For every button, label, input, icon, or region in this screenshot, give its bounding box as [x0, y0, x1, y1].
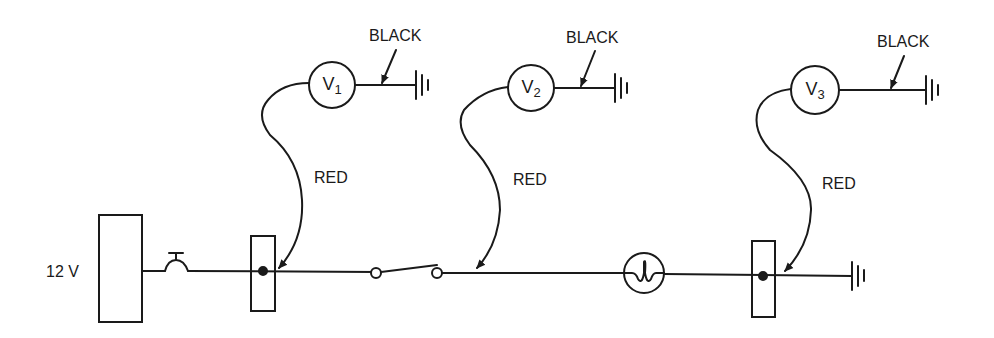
v2-subscript: 2 [533, 85, 540, 100]
circuit-breaker-icon [165, 253, 188, 271]
source-voltage-label: 12 V [46, 264, 79, 280]
v2-label: V2 [521, 78, 540, 99]
test-point-1 [259, 267, 267, 275]
v2-red-label: RED [513, 172, 547, 188]
ground-icon [852, 262, 864, 290]
voltmeter-v1 [262, 50, 428, 268]
test-point-3 [759, 272, 767, 280]
v1-red-label: RED [314, 170, 348, 186]
v3-black-label: BLACK [877, 34, 929, 50]
v1-letter: V [322, 74, 334, 94]
v3-label: V3 [805, 80, 824, 101]
voltmeter-v2 [461, 51, 627, 268]
circuit-diagram: 12 V V1 V2 V3 BLACK BLACK BLACK RED RED … [0, 0, 994, 338]
v3-letter: V [805, 79, 817, 99]
v3-red-label: RED [822, 176, 856, 192]
circuit-drawing [0, 0, 994, 338]
lamp-icon [624, 253, 664, 293]
main-wire [664, 274, 852, 276]
v2-letter: V [521, 77, 533, 97]
main-wire [188, 271, 376, 272]
battery [99, 215, 142, 322]
voltmeter-v3 [757, 56, 939, 271]
switch-icon [371, 265, 442, 278]
v1-black-label: BLACK [369, 28, 421, 44]
v3-subscript: 3 [817, 87, 824, 102]
v1-label: V1 [322, 75, 341, 96]
v2-black-label: BLACK [566, 30, 618, 46]
v1-subscript: 1 [334, 82, 341, 97]
